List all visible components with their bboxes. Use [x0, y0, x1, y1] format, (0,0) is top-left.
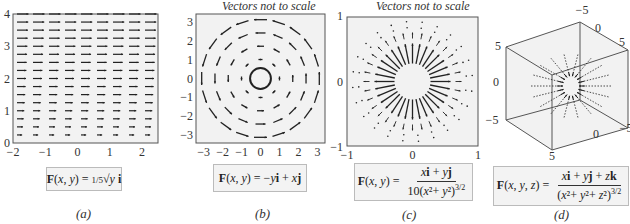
svg-text:0: 0	[75, 145, 81, 159]
svg-text:−3: −3	[197, 145, 210, 159]
svg-text:−5: −5	[576, 3, 589, 17]
svg-text:4: 4	[4, 7, 10, 21]
formula-b: F(x, y) = −yi + xj	[219, 171, 301, 186]
caption-d: (d)	[554, 207, 569, 223]
panel-a: −2−101201234 F(x, y) = 1/5√y i (a)	[0, 0, 160, 224]
svg-text:2: 2	[295, 145, 301, 159]
formula-box-a: F(x, y) = 1/5√y i	[46, 167, 122, 191]
svg-text:−1: −1	[330, 140, 343, 154]
svg-text:0: 0	[410, 148, 416, 162]
formula-c: F(x, y) =xi + yj10(x²+ y²)3/2	[358, 165, 470, 199]
svg-text:−5: −5	[486, 113, 499, 127]
caption-b: (b)	[255, 206, 270, 222]
svg-text:1: 1	[337, 9, 343, 23]
caption-c: (c)	[402, 207, 416, 223]
svg-text:−5: −5	[620, 121, 630, 135]
svg-text:0: 0	[258, 145, 264, 159]
svg-text:1: 1	[187, 53, 193, 67]
svg-text:0: 0	[595, 21, 601, 35]
svg-text:3: 3	[187, 15, 193, 29]
svg-text:5: 5	[619, 35, 625, 49]
svg-text:1: 1	[276, 145, 282, 159]
svg-text:5: 5	[495, 39, 501, 53]
panel-c: Vectors not to scale −101−101 F(x, y) =x…	[320, 0, 480, 224]
svg-text:2: 2	[139, 145, 145, 159]
svg-text:−3: −3	[180, 128, 193, 142]
formula-box-c: F(x, y) =xi + yj10(x²+ y²)3/2	[354, 163, 473, 201]
panel-b: Vectors not to scale −3−2−10123−3−2−1012…	[160, 0, 325, 224]
svg-text:−1: −1	[39, 145, 52, 159]
svg-text:0: 0	[4, 136, 10, 150]
svg-text:1: 1	[4, 104, 10, 118]
formula-d: F(x, y, z) =xi + yj + zk(x²+ y²+ z²)3/2	[497, 169, 625, 203]
svg-text:0: 0	[493, 75, 499, 89]
svg-text:−2: −2	[180, 109, 193, 123]
svg-text:2: 2	[187, 34, 193, 48]
svg-text:1: 1	[107, 145, 113, 159]
formula-box-d: F(x, y, z) =xi + yj + zk(x²+ y²+ z²)3/2	[493, 166, 629, 206]
formula-a: F(x, y) = 1/5√y i	[47, 172, 122, 187]
svg-text:0: 0	[593, 127, 599, 141]
svg-text:−1: −1	[235, 145, 248, 159]
caption-a: (a)	[76, 206, 91, 222]
svg-text:0: 0	[187, 72, 193, 86]
formula-box-b: F(x, y) = −yi + xj	[213, 164, 307, 192]
svg-text:2: 2	[4, 72, 10, 86]
svg-text:−1: −1	[180, 90, 193, 104]
svg-text:0: 0	[337, 75, 343, 89]
svg-text:5: 5	[549, 149, 555, 163]
panel-d: −50550−5−505 F(x, y, z) =xi + yj + zk(x²…	[470, 0, 630, 224]
svg-text:−2: −2	[216, 145, 229, 159]
svg-text:3: 3	[4, 39, 10, 53]
